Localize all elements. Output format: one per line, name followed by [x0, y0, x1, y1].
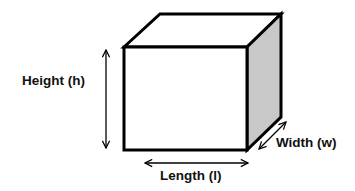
height-label: Height (h) [22, 73, 85, 88]
length-label: Length (l) [160, 168, 221, 183]
cube-front-face [124, 47, 247, 150]
cube-diagram: Height (h) Length (l) Width (w) [0, 0, 355, 191]
width-label: Width (w) [276, 135, 337, 150]
